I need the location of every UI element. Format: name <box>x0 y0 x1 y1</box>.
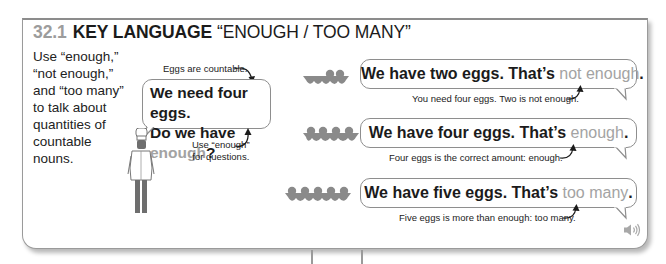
highlight-too-many: too many <box>563 184 629 201</box>
speech-bubble-tail <box>614 87 630 101</box>
explanation-not-enough: You need four eggs. Two is not enough. <box>412 93 579 105</box>
highlight-enough: enough <box>570 124 623 141</box>
chef-icon <box>126 128 156 220</box>
speech-bubble-not-enough: We have two eggs. That’s not enough. <box>360 59 637 89</box>
bubble-line-1: We need four eggs. <box>150 83 270 123</box>
speaker-icon[interactable] <box>623 223 641 237</box>
arrow-icon <box>566 84 588 102</box>
explanation-too-many: Five eggs is more than enough: too many. <box>399 212 576 224</box>
speech-bubble-too-many: We have five eggs. That’s too many. <box>360 178 637 208</box>
title-key-language: KEY LANGUAGE <box>73 22 212 42</box>
egg-carton-two-icon <box>303 68 349 88</box>
arrow-icon <box>562 203 584 221</box>
speech-bubble-enough: We have four eggs. That’s enough. <box>360 118 637 148</box>
arrow-icon <box>234 126 256 150</box>
arrow-icon <box>559 143 581 161</box>
speech-bubble-tail <box>614 146 630 160</box>
speech-bubble-tail <box>614 206 630 220</box>
egg-carton-four-icon <box>303 125 359 145</box>
explanation-enough: Four eggs is the correct amount: enough. <box>389 152 563 164</box>
title-topic: “ENOUGH / TOO MANY” <box>217 22 411 42</box>
egg-carton-five-icon <box>285 185 351 205</box>
connector-left-line <box>311 250 313 264</box>
intro-text: Use “enough,” “not enough,” and “too man… <box>33 48 133 167</box>
section-title: 32.1KEY LANGUAGE “ENOUGH / TOO MANY” <box>33 22 411 43</box>
speech-bubble-question: We need four eggs. Do we have enough? <box>142 79 271 129</box>
highlight-not-enough: not enough <box>559 65 639 82</box>
section-number: 32.1 <box>33 22 67 42</box>
connector-right-line <box>361 250 363 264</box>
